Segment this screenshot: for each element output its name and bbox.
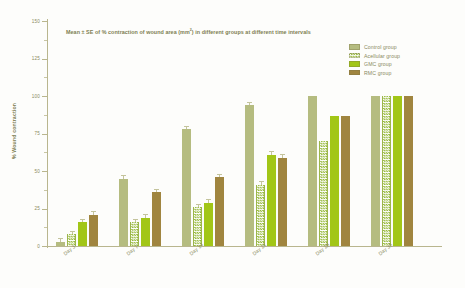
- bar-holder: [193, 21, 202, 246]
- bar-holder: [182, 21, 191, 246]
- bar-group-day-35: [371, 21, 413, 246]
- bar-holder: [245, 21, 254, 246]
- bar-holder: [341, 21, 350, 246]
- bar-day14-acellular[interactable]: [193, 207, 202, 246]
- bar-holder: [371, 21, 380, 246]
- error-bar: [249, 102, 250, 105]
- error-bar: [72, 231, 73, 234]
- bar-day28-gmc[interactable]: [330, 116, 339, 247]
- bar-holder: [330, 21, 339, 246]
- error-bar: [123, 175, 124, 178]
- bar-group-day-21: [245, 21, 287, 246]
- bar-holder: [67, 21, 76, 246]
- bar-day28-rmc[interactable]: [341, 116, 350, 247]
- error-bar: [261, 181, 262, 184]
- bar-group-day-14: [182, 21, 224, 246]
- bar-day14-rmc[interactable]: [215, 177, 224, 246]
- bar-holder: [130, 21, 139, 246]
- bar-day28-control[interactable]: [308, 96, 317, 246]
- error-bar: [208, 199, 209, 202]
- bar-day7-rmc[interactable]: [152, 192, 161, 246]
- chart-figure: Mean ± SE of % contraction of wound area…: [0, 0, 465, 288]
- bar-holder: [267, 21, 276, 246]
- bar-holder: [78, 21, 87, 246]
- bar-day3-control[interactable]: [56, 242, 65, 247]
- bar-holder: [382, 21, 391, 246]
- error-bar: [135, 219, 136, 222]
- bar-group-day-3: [56, 21, 98, 246]
- bar-holder: [141, 21, 150, 246]
- error-bar: [93, 211, 94, 214]
- bar-day7-gmc[interactable]: [141, 218, 150, 247]
- bar-holder: [215, 21, 224, 246]
- bar-holder: [56, 21, 65, 246]
- error-bar: [60, 238, 61, 241]
- error-bar: [198, 204, 199, 207]
- bar-holder: [278, 21, 287, 246]
- bar-day28-acellular[interactable]: [319, 141, 328, 246]
- bar-group-day-28: [308, 21, 350, 246]
- bar-day14-gmc[interactable]: [204, 203, 213, 247]
- bar-holder: [204, 21, 213, 246]
- bar-day3-rmc[interactable]: [89, 215, 98, 247]
- error-bar: [156, 189, 157, 192]
- bar-holder: [393, 21, 402, 246]
- bar-day35-control[interactable]: [371, 96, 380, 246]
- bar-day21-acellular[interactable]: [256, 185, 265, 247]
- bar-holder: [152, 21, 161, 246]
- bar-day35-rmc[interactable]: [404, 96, 413, 246]
- bar-day35-acellular[interactable]: [382, 96, 391, 246]
- bar-day14-control[interactable]: [182, 129, 191, 246]
- error-bar: [219, 174, 220, 177]
- error-bar: [271, 151, 272, 154]
- bar-day21-gmc[interactable]: [267, 155, 276, 247]
- bar-day35-gmc[interactable]: [393, 96, 402, 246]
- bar-day21-control[interactable]: [245, 105, 254, 246]
- bar-holder: [256, 21, 265, 246]
- bar-holder: [319, 21, 328, 246]
- bar-holder: [404, 21, 413, 246]
- error-bar: [82, 219, 83, 222]
- error-bar: [282, 154, 283, 157]
- plot-area: Mean ± SE of % contraction of wound area…: [0, 0, 465, 288]
- bar-holder: [119, 21, 128, 246]
- bar-day21-rmc[interactable]: [278, 158, 287, 247]
- bar-holder: [308, 21, 317, 246]
- error-bar: [145, 214, 146, 217]
- bar-day7-control[interactable]: [119, 179, 128, 247]
- error-bar: [186, 126, 187, 129]
- bar-group-day-7: [119, 21, 161, 246]
- bar-holder: [89, 21, 98, 246]
- bar-day3-gmc[interactable]: [78, 222, 87, 246]
